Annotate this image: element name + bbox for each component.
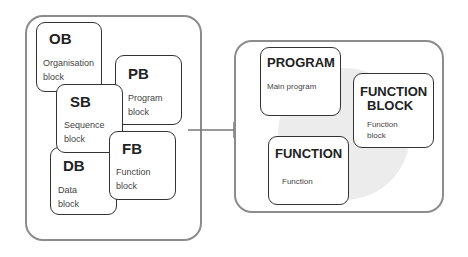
function-block: FUNCTION Function	[268, 136, 349, 205]
fb-desc-1: Function	[116, 165, 151, 179]
fb-desc-2: block	[116, 179, 137, 193]
pb-code: PB	[128, 65, 149, 82]
function-desc: Function	[282, 175, 313, 189]
ob-block: OB Organisation block	[36, 22, 102, 92]
ob-code: OB	[49, 30, 72, 47]
program-title: PROGRAM	[267, 55, 335, 70]
program-desc: Main program	[267, 80, 316, 94]
function-block-title-2: BLOCK	[367, 98, 413, 113]
pb-desc-2: block	[128, 105, 149, 119]
program-block: PROGRAM Main program	[260, 47, 341, 116]
pb-desc-1: Program	[128, 91, 163, 105]
function-block-block: FUNCTION BLOCK Function block	[353, 73, 434, 148]
ob-desc-2: block	[43, 70, 64, 84]
function-title: FUNCTION	[275, 146, 342, 161]
fb-block: FB Function block	[109, 131, 176, 200]
db-desc-2: block	[58, 197, 79, 211]
db-code: DB	[63, 157, 85, 174]
function-block-desc-2: block	[367, 130, 386, 141]
db-desc-1: Data	[58, 183, 77, 197]
ob-desc-1: Organisation	[43, 56, 94, 70]
sb-desc-1: Sequence	[64, 118, 105, 132]
pb-block: PB Program block	[115, 55, 182, 125]
function-block-title-1: FUNCTION	[360, 84, 427, 99]
function-block-desc-1: Function	[367, 119, 398, 130]
sb-desc-2: block	[64, 132, 85, 146]
sb-code: SB	[70, 93, 91, 110]
fb-code: FB	[122, 140, 142, 157]
db-block: DB Data block	[50, 147, 117, 215]
